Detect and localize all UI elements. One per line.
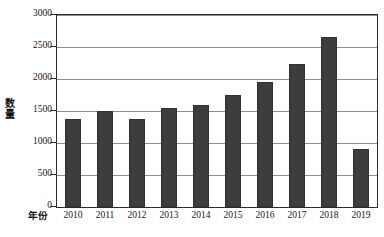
x-axis-tick: 2016 [249,210,281,221]
bar [225,95,241,207]
bar [65,119,81,207]
bar [129,119,145,207]
y-axis-tick-mark [50,142,56,143]
y-axis-tick: 500 [4,169,52,179]
bar [97,111,113,207]
x-axis-tick: 2012 [121,210,153,221]
x-axis-label: 年份 [18,210,58,221]
y-axis-tick-mark [50,46,56,47]
bar [289,64,305,207]
bar [161,108,177,207]
x-axis-tick: 2018 [313,210,345,221]
x-axis-tick: 2011 [89,210,121,221]
bar [193,105,209,207]
y-axis-tick: 3000 [4,9,52,19]
y-axis-tick: 1000 [4,137,52,147]
y-axis-tick-mark [50,78,56,79]
x-axis-tick: 2010 [57,210,89,221]
x-axis-tick: 2019 [345,210,377,221]
x-axis-tick: 2014 [185,210,217,221]
bar [353,149,369,207]
y-axis-tick: 0 [4,201,52,211]
x-axis-tick: 2015 [217,210,249,221]
y-axis-tick-mark [50,14,56,15]
x-axis-tick-labels: 2010201120122013201420152016201720182019 [57,210,377,226]
bar-chart: 数量 2010201120122013201420152016201720182… [0,0,384,237]
y-axis-tick: 2500 [4,41,52,51]
bar-series [57,15,377,207]
y-axis-tick-mark [50,206,56,207]
y-axis-tick: 2000 [4,73,52,83]
bar [257,82,273,207]
y-axis-tick: 1500 [4,105,52,115]
y-axis-tick-mark [50,110,56,111]
bar [321,37,337,207]
x-axis-tick: 2013 [153,210,185,221]
x-axis-tick: 2017 [281,210,313,221]
y-axis-tick-mark [50,174,56,175]
gridline [57,207,377,208]
